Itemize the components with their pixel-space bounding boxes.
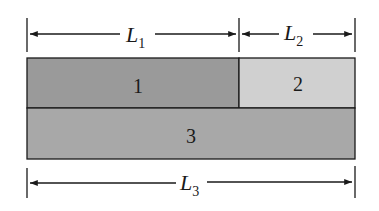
composite-bar-diagram: L1 L2 1 2 3 L3 [0, 0, 379, 211]
dimension-L3: L3 [27, 166, 355, 199]
dimension-L2: L2 [242, 18, 355, 52]
label-L3: L3 [179, 170, 199, 199]
dimension-L1: L1 [27, 18, 239, 52]
region-2-label: 2 [293, 73, 303, 95]
region-1-label: 1 [133, 75, 143, 97]
region-3-label: 3 [186, 125, 196, 147]
label-L1: L1 [125, 22, 145, 51]
label-L2: L2 [283, 20, 303, 49]
